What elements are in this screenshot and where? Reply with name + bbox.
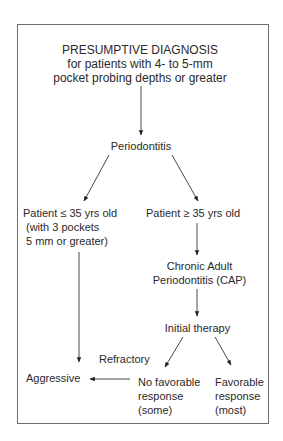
favorable-line3: (most)	[215, 403, 264, 417]
root-line2: for patients with 4- to 5-mm	[40, 57, 240, 71]
young-line1: Patient ≤ 35 yrs old	[23, 206, 138, 220]
node-presumptive-diagnosis: PRESUMPTIVE DIAGNOSIS for patients with …	[40, 43, 240, 85]
node-aggressive: Aggressive	[26, 371, 80, 385]
node-patient-young: Patient ≤ 35 yrs old (with 3 pockets 5 m…	[23, 206, 138, 248]
aggressive-label: Aggressive	[26, 371, 80, 385]
node-periodontitis: Periodontitis	[91, 139, 191, 153]
node-chronic-adult-periodontitis: Chronic Adult Periodontitis (CAP)	[142, 259, 257, 287]
periodontitis-label: Periodontitis	[91, 139, 191, 153]
young-line3: 5 mm or greater)	[23, 234, 138, 248]
no-favorable-line3: (some)	[138, 403, 200, 417]
initial-therapy-label: Initial therapy	[150, 321, 245, 335]
node-favorable-response: Favorable response (most)	[215, 375, 264, 417]
root-line3: pocket probing depths or greater	[40, 71, 240, 85]
node-initial-therapy: Initial therapy	[150, 321, 245, 335]
root-title: PRESUMPTIVE DIAGNOSIS	[40, 43, 240, 57]
young-line2: (with 3 pockets	[23, 220, 138, 234]
node-no-favorable-response: No favorable response (some)	[138, 375, 200, 417]
adult-line1: Patient ≥ 35 yrs old	[146, 206, 266, 220]
cap-line2: Periodontitis (CAP)	[142, 273, 257, 287]
cap-line1: Chronic Adult	[142, 259, 257, 273]
node-patient-adult: Patient ≥ 35 yrs old	[146, 206, 266, 220]
favorable-line2: response	[215, 389, 264, 403]
edge-label-refractory: Refractory	[99, 352, 150, 366]
no-favorable-line2: response	[138, 389, 200, 403]
favorable-line1: Favorable	[215, 375, 264, 389]
refractory-label: Refractory	[99, 352, 150, 366]
no-favorable-line1: No favorable	[138, 375, 200, 389]
